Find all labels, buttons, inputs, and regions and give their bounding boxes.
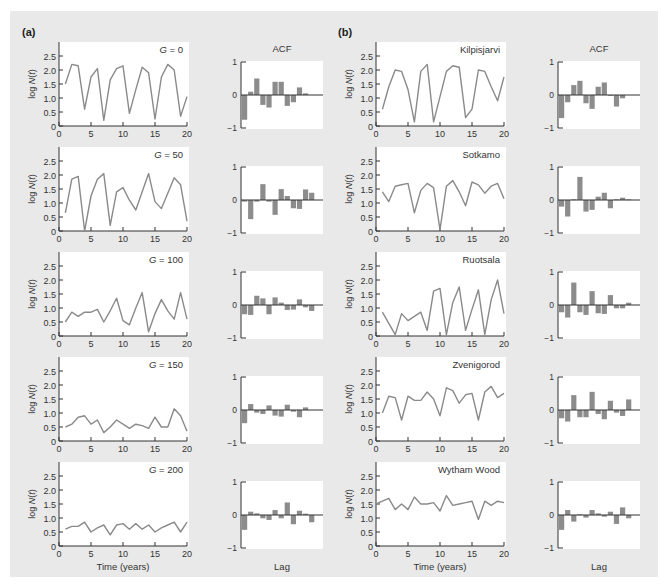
- acf-bar: [254, 79, 259, 96]
- y-tick-label: 1.0: [43, 304, 56, 314]
- acf-y-tick: 0: [232, 195, 237, 205]
- x-tick-label: 0: [56, 129, 61, 139]
- x-tick-label: 5: [405, 234, 410, 244]
- acf-bar: [583, 410, 588, 417]
- acf-bar: [303, 189, 308, 200]
- acf-bar: [297, 87, 302, 95]
- x-tick-label: 0: [56, 234, 61, 244]
- y-tick-label: 2.0: [360, 171, 373, 181]
- acf-bar: [583, 305, 588, 315]
- acf-bar: [608, 295, 613, 305]
- acf-bar: [571, 515, 576, 522]
- y-tick-label: 2.5: [43, 367, 56, 377]
- y-tick-label: 1.5: [43, 185, 56, 195]
- acf-bar: [565, 510, 570, 515]
- acf-chart-g-150: 10−1: [227, 372, 323, 448]
- x-tick-label: 5: [88, 129, 93, 139]
- acf-bar: [614, 95, 619, 107]
- acf-bar: [571, 395, 576, 410]
- x-tick-label: 0: [373, 549, 378, 559]
- x-tick-label: 20: [182, 339, 192, 349]
- y-tick-label: 0.5: [43, 423, 56, 433]
- acf-y-tick: 0: [232, 90, 237, 100]
- x-tick-label: 15: [467, 444, 477, 454]
- y-tick-label: 0: [368, 542, 373, 552]
- figure-canvas: 00.51.01.52.02.505101520log N(t)G = 000.…: [0, 0, 669, 586]
- acf-bar: [297, 299, 302, 305]
- acf-bar: [273, 297, 278, 305]
- acf-bar: [602, 82, 607, 95]
- acf-bar: [309, 515, 314, 522]
- acf-bar: [559, 410, 564, 418]
- acf-bar: [602, 305, 607, 314]
- y-tick-label: 2.5: [360, 157, 373, 167]
- x-tick-label: 10: [118, 444, 128, 454]
- y-tick-label: 1.5: [43, 395, 56, 405]
- acf-bar: [565, 95, 570, 102]
- y-tick-label: 1.5: [360, 395, 373, 405]
- y-axis-label: log N(t): [344, 384, 354, 414]
- y-axis-label: log N(t): [344, 174, 354, 204]
- x-tick-label: 10: [435, 339, 445, 349]
- acf-bar: [248, 305, 253, 315]
- acf-y-tick: 0: [232, 405, 237, 415]
- series-title: Kilpisjarvi: [460, 44, 500, 55]
- acf-chart-ruotsala: 10−1: [544, 267, 640, 343]
- acf-bar: [620, 410, 625, 416]
- y-tick-label: 0.5: [360, 528, 373, 538]
- acf-y-tick: −1: [544, 228, 554, 238]
- line-chart-g-150: 00.51.01.52.02.505101520log N(t)G = 150: [27, 357, 192, 454]
- y-axis-label: log N(t): [344, 489, 354, 519]
- acf-bar: [608, 401, 613, 410]
- acf-bar: [254, 296, 259, 305]
- acf-bar: [266, 95, 271, 108]
- x-tick-label: 15: [467, 549, 477, 559]
- acf-bar: [266, 515, 271, 520]
- y-tick-label: 1.0: [360, 409, 373, 419]
- acf-y-tick: 1: [549, 267, 554, 277]
- acf-bar: [565, 305, 570, 318]
- acf-bar: [596, 305, 601, 313]
- series-title: G = 0: [159, 44, 183, 55]
- x-tick-label: 20: [499, 129, 509, 139]
- acf-y-tick: 0: [232, 300, 237, 310]
- acf-chart-sotkamo: 10−1: [544, 162, 640, 238]
- line-chart-g-50: 00.51.01.52.02.505101520log N(t)G = 50: [27, 147, 192, 244]
- x-tick-label: 5: [88, 549, 93, 559]
- series-title: G = 150: [149, 359, 183, 370]
- x-tick-label: 10: [435, 129, 445, 139]
- acf-bar: [297, 511, 302, 515]
- acf-title: ACF: [590, 43, 609, 54]
- y-tick-label: 0: [51, 542, 56, 552]
- acf-title: ACF: [273, 43, 292, 54]
- x-tick-label: 15: [150, 234, 160, 244]
- acf-bar: [273, 510, 278, 515]
- y-tick-label: 0.5: [360, 423, 373, 433]
- x-tick-label: 15: [150, 549, 160, 559]
- acf-y-tick: −1: [544, 333, 554, 343]
- y-axis-label: log N(t): [27, 69, 37, 99]
- y-tick-label: 0.5: [360, 213, 373, 223]
- acf-y-tick: 1: [232, 372, 237, 382]
- y-axis-label: log N(t): [27, 279, 37, 309]
- acf-y-tick: 1: [549, 162, 554, 172]
- y-tick-label: 2.5: [360, 472, 373, 482]
- y-tick-label: 0: [368, 332, 373, 342]
- acf-bar: [596, 87, 601, 95]
- line-chart-ruotsala: 00.51.01.52.02.505101520log N(t)Ruotsala: [344, 252, 509, 349]
- x-tick-label: 0: [373, 234, 378, 244]
- x-tick-label: 0: [56, 444, 61, 454]
- y-tick-label: 2.5: [360, 262, 373, 272]
- line-chart-g-100: 00.51.01.52.02.505101520log N(t)G = 100: [27, 252, 192, 349]
- y-tick-label: 2.0: [360, 381, 373, 391]
- x-tick-label: 10: [435, 234, 445, 244]
- x-tick-label: 0: [56, 339, 61, 349]
- y-tick-label: 0: [368, 437, 373, 447]
- acf-y-tick: 1: [549, 372, 554, 382]
- acf-bar: [565, 410, 570, 422]
- acf-bar: [577, 81, 582, 95]
- y-tick-label: 2.5: [43, 157, 56, 167]
- acf-bar: [260, 95, 265, 105]
- acf-bar: [242, 515, 247, 530]
- y-tick-label: 0.5: [43, 213, 56, 223]
